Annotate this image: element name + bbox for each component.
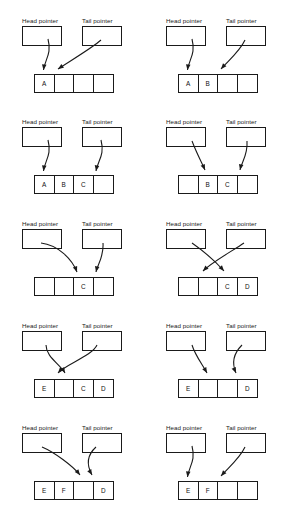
pointer-arrows [0,9,143,110]
head-pointer-arrow [42,39,49,70]
tail-pointer-arrow [221,447,245,476]
tail-pointer-arrow [58,40,101,69]
head-pointer-arrow [192,345,207,373]
queue-state-panel: Head pointerTail pointerEF [144,416,287,517]
head-pointer-arrow [42,447,80,475]
queue-state-panel: Head pointerTail pointerC [0,212,143,313]
queue-state-panel: Head pointerTail pointerED [144,314,287,415]
head-pointer-arrow [192,141,205,170]
tail-pointer-arrow [232,345,242,373]
head-pointer-arrow [186,446,193,477]
tail-pointer-arrow [239,141,247,170]
tail-pointer-arrow [95,243,103,272]
head-pointer-arrow [41,243,77,272]
pointer-arrows [144,212,287,313]
head-pointer-arrow [46,345,65,373]
pointer-arrows [0,110,143,211]
tail-pointer-arrow [58,345,97,373]
pointer-arrows [144,416,287,517]
pointer-arrows [144,110,287,211]
queue-state-panel: Head pointerTail pointerABC [0,110,143,211]
tail-pointer-arrow [221,40,245,69]
queue-pointer-diagram: Head pointerTail pointerAHead pointerTai… [0,0,287,517]
queue-state-panel: Head pointerTail pointerA [0,9,143,110]
pointer-arrows [144,9,287,110]
queue-state-panel: Head pointerTail pointerECD [0,314,143,415]
head-pointer-arrow [42,140,49,171]
pointer-arrows [0,212,143,313]
queue-state-panel: Head pointerTail pointerBC [144,110,287,211]
queue-state-panel: Head pointerTail pointerEFD [0,416,143,517]
tail-pointer-arrow [95,140,102,171]
queue-state-panel: Head pointerTail pointerCD [144,212,287,313]
pointer-arrows [144,314,287,415]
queue-state-panel: Head pointerTail pointerAB [144,9,287,110]
pointer-arrows [0,314,143,415]
head-pointer-arrow [186,39,193,70]
pointer-arrows [0,416,143,517]
tail-pointer-arrow [87,447,96,475]
